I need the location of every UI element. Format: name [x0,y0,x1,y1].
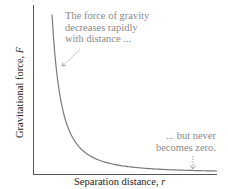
arrow-rapid-decrease [62,49,80,66]
annotation-line: The force of gravity [65,10,149,22]
y-axis-variable: F [14,47,25,53]
x-axis-label: Separation distance, r [74,176,165,187]
annotation-line: decreases rapidly [65,22,149,34]
x-axis-variable: r [161,176,165,187]
annotation-line: ... but never [149,130,216,142]
annotation-never-zero: ... but never becomes zero. [149,130,216,153]
y-axis-label: Gravitational force, F [14,47,25,138]
annotation-rapid-decrease: The force of gravity decreases rapidly w… [65,10,149,45]
annotation-line: becomes zero. [149,142,216,154]
x-axis-label-text: Separation distance, [74,176,161,187]
y-axis-label-text: Gravitational force, [14,53,25,138]
annotation-line: with distance ... [65,33,149,45]
